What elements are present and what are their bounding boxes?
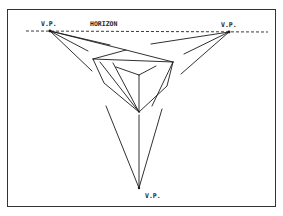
perspective-diagram: V.P. HORIZON V.P. V.P. <box>0 0 283 216</box>
vp-right-label: V.P. <box>221 21 237 29</box>
horizon-line <box>26 31 268 32</box>
diagram-frame <box>8 10 276 207</box>
vp-left-label: V.P. <box>41 20 57 28</box>
vp-bottom-label: V.P. <box>145 192 161 200</box>
horizon-label: HORIZON <box>90 20 117 28</box>
right-vp-converging-lines <box>151 31 230 74</box>
bottom-vp-converging-lines <box>106 106 162 189</box>
box-object <box>93 50 173 112</box>
